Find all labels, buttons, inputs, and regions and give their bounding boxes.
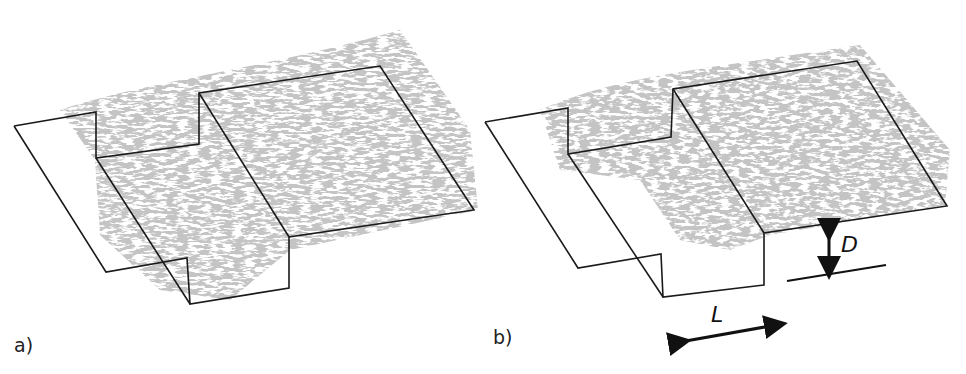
panel-b-label: b) (493, 326, 512, 348)
depth-symbol: D (841, 232, 858, 257)
depth-arrow (787, 230, 886, 281)
panel-a-label: a) (14, 334, 33, 356)
panel-b-figure (483, 0, 966, 374)
vortex-structures-a (0, 0, 483, 374)
panel-b: b) D L (483, 0, 966, 374)
panel-a-figure (0, 0, 483, 374)
length-arrow (680, 325, 776, 342)
vortex-structures-b (483, 0, 966, 374)
length-symbol: L (711, 302, 723, 327)
panel-a: a) (0, 0, 483, 374)
